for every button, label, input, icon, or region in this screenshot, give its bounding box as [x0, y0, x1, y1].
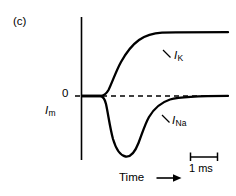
ik-base: I	[174, 49, 177, 61]
ik-subscript: K	[178, 53, 184, 63]
im-base: I	[45, 104, 48, 116]
time-axis-label: Time	[119, 172, 144, 184]
panel-letter: (c)	[13, 16, 26, 28]
zero-axis-label: 0	[62, 88, 68, 100]
im-subscript: m	[49, 108, 56, 118]
membrane-current-figure: (c) 0 Im IK INa 1 ms Time	[0, 0, 236, 196]
ina-subscript: Na	[176, 118, 187, 128]
potassium-current-curve	[82, 32, 228, 96]
ina-base: I	[172, 114, 175, 126]
sodium-current-label: INa	[172, 115, 186, 127]
scalebar-label: 1 ms	[189, 163, 213, 174]
arrow-right-icon	[156, 172, 182, 184]
potassium-label-leader-line	[163, 50, 171, 58]
time-scalebar	[190, 153, 218, 162]
sodium-current-curve	[82, 96, 228, 157]
membrane-current-axis-label: Im	[45, 105, 55, 117]
potassium-current-label: IK	[174, 50, 183, 62]
sodium-label-leader-line	[162, 115, 170, 123]
